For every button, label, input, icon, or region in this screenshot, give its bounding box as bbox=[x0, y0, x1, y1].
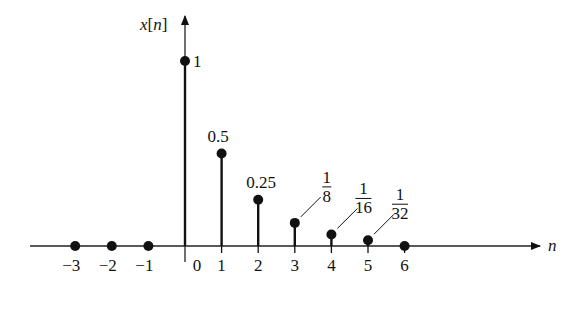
x-tick-label: 5 bbox=[364, 256, 373, 275]
stem-marker bbox=[107, 241, 117, 251]
fraction-denominator: 16 bbox=[355, 198, 372, 217]
stem-marker bbox=[217, 149, 227, 159]
fraction-denominator: 32 bbox=[392, 204, 409, 223]
fraction-numerator: 1 bbox=[323, 168, 332, 187]
x-tick-label: 4 bbox=[327, 256, 336, 275]
x-axis-label: n bbox=[548, 236, 557, 255]
stem-marker bbox=[143, 241, 153, 251]
stem-marker bbox=[180, 56, 190, 66]
stem-marker bbox=[70, 241, 80, 251]
stem-marker bbox=[253, 195, 263, 205]
value-label: 0.25 bbox=[246, 173, 276, 192]
fraction-numerator: 1 bbox=[396, 185, 405, 204]
x-tick-label: 1 bbox=[217, 256, 226, 275]
x-tick-label: −2 bbox=[99, 256, 117, 275]
stems: 10.50.2518116132 bbox=[70, 52, 409, 253]
x-tick-label: 3 bbox=[291, 256, 300, 275]
x-tick-label: 2 bbox=[254, 256, 263, 275]
value-label: 1 bbox=[193, 52, 202, 71]
x-tick-label: −1 bbox=[135, 256, 153, 275]
stem-marker bbox=[326, 229, 336, 239]
stem-marker bbox=[363, 235, 373, 245]
x-tick-label: 0 bbox=[193, 256, 202, 275]
x-tick-labels: −3−2−10123456 bbox=[62, 256, 409, 275]
y-axis-label: x[n] bbox=[139, 15, 167, 34]
stem-marker bbox=[290, 218, 300, 228]
value-label: 0.5 bbox=[208, 127, 229, 146]
x-tick-label: 6 bbox=[400, 256, 409, 275]
stem-marker bbox=[400, 241, 410, 251]
fraction-numerator: 1 bbox=[359, 179, 368, 198]
x-tick-label: −3 bbox=[62, 256, 80, 275]
stem-plot: x[n] n 10.50.2518116132 −3−2−10123456 bbox=[0, 0, 586, 319]
fraction-denominator: 8 bbox=[323, 187, 332, 206]
leader-line bbox=[301, 197, 321, 217]
